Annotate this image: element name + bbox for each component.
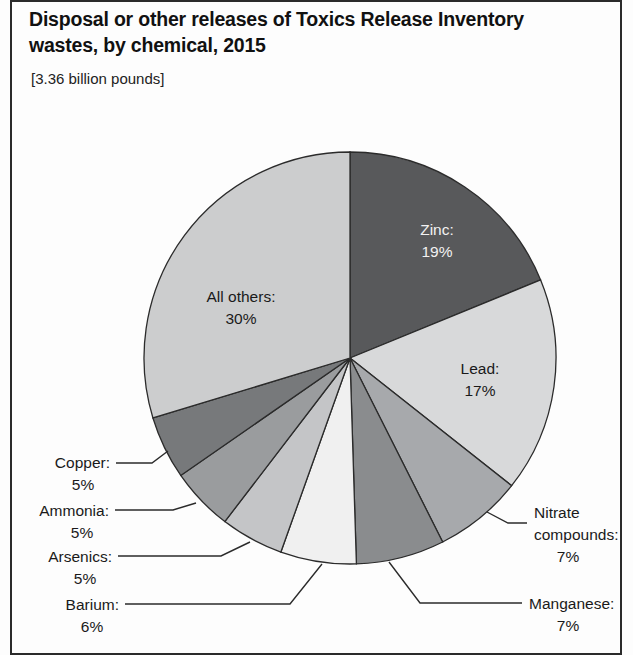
callout-label-nitrate-percent: 7% xyxy=(557,548,580,565)
slice-label-zinc-name: Zinc: xyxy=(420,221,454,238)
callout-label-arsenics-name: Arsenics: xyxy=(48,548,112,565)
leader-line-barium xyxy=(125,564,322,604)
callout-label-copper-percent: 5% xyxy=(72,476,95,493)
slice-label-lead-percent: 17% xyxy=(464,382,495,399)
leader-line-copper xyxy=(116,451,168,463)
slice-label-lead-name: Lead: xyxy=(461,360,500,377)
slice-label-all-others-percent: 30% xyxy=(225,310,256,327)
callout-label-arsenics-percent: 5% xyxy=(74,570,97,587)
callout-label-ammonia-percent: 5% xyxy=(71,524,94,541)
leader-line-arsenics xyxy=(118,542,250,556)
figure-container: Disposal or other releases of Toxics Rel… xyxy=(0,0,633,655)
pie-slices-group xyxy=(144,152,556,564)
callout-label-barium-percent: 6% xyxy=(81,618,104,635)
pie-chart-svg: Zinc: 19% Lead: 17% All others: 30% Nitr… xyxy=(0,0,633,655)
callout-label-nitrate-name: Nitrate xyxy=(534,504,580,521)
callout-label-copper-name: Copper: xyxy=(55,454,110,471)
callout-label-manganese-percent: 7% xyxy=(557,617,580,634)
callout-label-ammonia-name: Ammonia: xyxy=(39,502,109,519)
leader-line-nitrate xyxy=(487,512,527,523)
callout-label-barium-name: Barium: xyxy=(66,596,119,613)
pie-chart: Zinc: 19% Lead: 17% All others: 30% Nitr… xyxy=(0,0,633,655)
leader-line-ammonia xyxy=(115,503,196,510)
leader-line-manganese xyxy=(389,562,522,603)
callout-label-manganese-name: Manganese: xyxy=(529,595,614,612)
slice-label-all-others-name: All others: xyxy=(207,288,276,305)
callout-label-nitrate-name2: compounds: xyxy=(534,526,618,543)
slice-label-zinc-percent: 19% xyxy=(421,243,452,260)
